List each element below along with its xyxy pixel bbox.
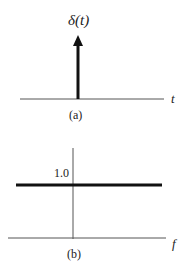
time-axis-label: t <box>171 91 175 106</box>
caption-b: (b) <box>67 247 81 261</box>
impulse-arrowhead-icon <box>73 35 83 46</box>
diagram: δ(t) t (a) 1.0 f (b) <box>0 0 184 275</box>
panel-a: δ(t) t (a) <box>20 12 175 122</box>
caption-a: (a) <box>69 108 82 122</box>
panel-b: 1.0 f (b) <box>8 148 178 261</box>
frequency-axis-label: f <box>172 236 178 251</box>
delta-label: δ(t) <box>68 12 89 29</box>
level-label: 1.0 <box>54 166 69 180</box>
